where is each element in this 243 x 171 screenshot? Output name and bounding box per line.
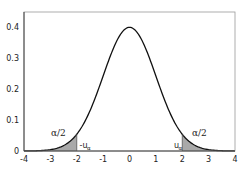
svg-text:α: α — [179, 145, 183, 151]
y-tick-label: 0.3 — [6, 54, 19, 63]
x-tick-label: -3 — [46, 155, 54, 164]
x-tick-label: 2 — [180, 155, 185, 164]
y-tick-label: 0.1 — [6, 116, 19, 125]
neg-u-alpha-label: -u α — [80, 141, 92, 151]
x-tick-label: -1 — [99, 155, 107, 164]
x-tick-label: 0 — [127, 155, 132, 164]
normal-distribution-chart: -4-3-2-101234 00.10.20.30.4 α/2 α/2 -u α… — [0, 0, 243, 171]
pos-u-alpha-label: u α — [174, 141, 183, 151]
x-tick-label: 4 — [232, 155, 237, 164]
y-tick-labels: 00.10.20.30.4 — [6, 23, 19, 156]
svg-text:α: α — [87, 145, 91, 151]
x-tick-labels: -4-3-2-101234 — [20, 155, 238, 164]
y-tick-label: 0.2 — [6, 85, 19, 94]
x-tick-label: 1 — [153, 155, 158, 164]
x-tick-label: -4 — [20, 155, 28, 164]
alpha-half-left-label: α/2 — [51, 128, 66, 138]
y-tick-label: 0.4 — [6, 23, 19, 32]
x-tick-label: -2 — [73, 155, 81, 164]
alpha-half-right-label: α/2 — [192, 128, 207, 138]
x-tick-label: 3 — [206, 155, 211, 164]
y-tick-label: 0 — [14, 147, 19, 156]
